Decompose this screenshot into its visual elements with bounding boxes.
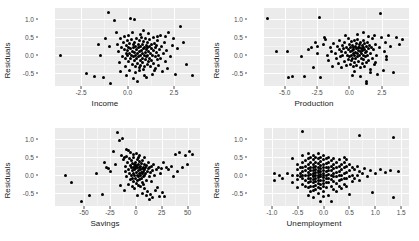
data-point bbox=[125, 74, 128, 77]
data-point bbox=[159, 172, 162, 175]
x-tick-mark bbox=[161, 206, 162, 209]
data-point bbox=[326, 54, 329, 57]
data-point bbox=[85, 72, 88, 75]
y-tick-label: 1.0 bbox=[25, 15, 34, 22]
data-point bbox=[151, 169, 154, 172]
data-point bbox=[307, 48, 310, 51]
data-point bbox=[345, 158, 348, 161]
data-point bbox=[275, 50, 278, 53]
data-point bbox=[392, 136, 395, 139]
data-point bbox=[380, 36, 383, 39]
y-tick-mark bbox=[245, 193, 248, 194]
data-point bbox=[122, 158, 125, 161]
y-tick-label: -0.5 bbox=[232, 70, 243, 77]
x-tick-label: -1.0 bbox=[266, 209, 277, 216]
x-tick-label: -50 bbox=[79, 209, 88, 216]
data-point bbox=[156, 58, 159, 61]
x-tick-mark bbox=[271, 206, 272, 209]
data-point bbox=[365, 50, 368, 53]
data-point bbox=[134, 65, 137, 68]
data-point bbox=[359, 66, 362, 69]
data-point bbox=[191, 74, 194, 77]
data-point bbox=[312, 196, 315, 199]
gridline-vertical bbox=[84, 128, 85, 206]
data-point bbox=[378, 46, 381, 49]
data-point bbox=[287, 76, 290, 79]
data-point bbox=[133, 18, 136, 21]
data-point bbox=[124, 165, 127, 168]
panel-income: Residuals 1.00.50.0-0.5 -2.50.02.5 Incom… bbox=[0, 0, 210, 120]
data-point bbox=[135, 152, 138, 155]
data-point bbox=[123, 35, 126, 38]
data-point bbox=[392, 71, 395, 74]
gridline-vertical bbox=[272, 128, 273, 206]
data-point bbox=[401, 38, 404, 41]
data-point bbox=[159, 34, 162, 37]
data-point bbox=[64, 174, 67, 177]
data-point bbox=[159, 57, 162, 60]
data-point bbox=[343, 41, 346, 44]
data-point bbox=[389, 169, 392, 172]
data-point bbox=[118, 61, 121, 64]
data-point bbox=[138, 39, 141, 42]
data-point bbox=[59, 54, 62, 57]
y-tick-mark bbox=[36, 73, 39, 74]
data-point bbox=[158, 48, 161, 51]
data-point bbox=[139, 33, 142, 36]
data-point bbox=[384, 171, 387, 174]
x-tick-label: 1.5 bbox=[397, 209, 406, 216]
data-point bbox=[166, 67, 169, 70]
data-point bbox=[124, 65, 127, 68]
data-point bbox=[374, 172, 377, 175]
data-point bbox=[330, 50, 333, 53]
data-point bbox=[156, 39, 159, 42]
data-point bbox=[128, 42, 131, 45]
data-point bbox=[338, 158, 341, 161]
data-point bbox=[316, 52, 319, 55]
data-point bbox=[273, 172, 276, 175]
x-tick-label: 2.5 bbox=[169, 89, 178, 96]
data-point bbox=[316, 45, 319, 48]
gridline-horizontal bbox=[264, 139, 409, 140]
data-point bbox=[365, 80, 368, 83]
data-point bbox=[325, 186, 328, 189]
y-tick-mark bbox=[245, 55, 248, 56]
data-point bbox=[331, 65, 334, 68]
data-point bbox=[152, 62, 155, 65]
x-tick-label: 1.0 bbox=[371, 209, 380, 216]
x-axis-label-production: Production bbox=[209, 99, 419, 108]
data-point bbox=[307, 152, 310, 155]
x-tick-label: 0.0 bbox=[319, 209, 328, 216]
data-point bbox=[152, 36, 155, 39]
y-tick-mark bbox=[36, 18, 39, 19]
y-tick-mark bbox=[245, 18, 248, 19]
plot-area-production bbox=[264, 8, 409, 86]
data-point bbox=[163, 195, 166, 198]
data-point bbox=[286, 50, 289, 53]
y-tick-label: 0.0 bbox=[234, 172, 243, 179]
data-point bbox=[322, 195, 325, 198]
data-point bbox=[363, 167, 366, 170]
data-point bbox=[356, 165, 359, 168]
data-point bbox=[322, 43, 325, 46]
y-tick-label: 0.0 bbox=[234, 52, 243, 59]
y-tick-label: 0.5 bbox=[234, 154, 243, 161]
data-point bbox=[356, 174, 359, 177]
data-point bbox=[142, 68, 145, 71]
x-tick-mark bbox=[135, 206, 136, 209]
y-tick-label: 0.5 bbox=[234, 34, 243, 41]
data-point bbox=[113, 19, 116, 22]
y-tick-mark bbox=[36, 55, 39, 56]
y-tick-label: 0.0 bbox=[25, 172, 34, 179]
data-point bbox=[157, 64, 160, 67]
gridline-vertical bbox=[188, 128, 189, 206]
data-point bbox=[136, 194, 139, 197]
data-point bbox=[154, 46, 157, 49]
data-point bbox=[303, 75, 306, 78]
data-point bbox=[125, 148, 128, 151]
data-point bbox=[345, 185, 348, 188]
y-tick-label: -0.5 bbox=[232, 190, 243, 197]
data-point bbox=[330, 200, 333, 203]
data-point bbox=[335, 190, 338, 193]
data-point bbox=[296, 186, 299, 189]
